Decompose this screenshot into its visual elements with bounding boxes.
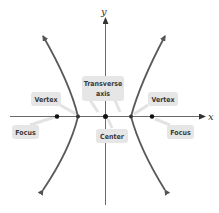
label-transverse-axis: Transverse axis — [82, 76, 124, 101]
focus-left-point — [55, 114, 60, 119]
center-point — [103, 114, 108, 119]
svg-text:Vertex: Vertex — [34, 96, 57, 104]
label-focus-right: Focus — [167, 125, 194, 139]
svg-text:Focus: Focus — [15, 129, 36, 137]
hyperbola-diagram: x y Vertex Focus Transverse axis Center … — [0, 0, 219, 213]
vertex-left-point — [76, 115, 80, 119]
svg-text:Center: Center — [100, 133, 125, 141]
label-vertex-left: Vertex — [31, 92, 61, 106]
focus-right-point — [150, 114, 155, 119]
label-center: Center — [96, 129, 128, 143]
x-axis-label: x — [208, 111, 214, 122]
svg-text:axis: axis — [96, 90, 110, 98]
svg-text:Transverse: Transverse — [84, 80, 123, 88]
y-axis-label: y — [100, 6, 107, 17]
svg-text:Focus: Focus — [170, 129, 191, 137]
label-vertex-right: Vertex — [148, 92, 178, 106]
label-focus-left: Focus — [12, 125, 39, 139]
svg-text:Vertex: Vertex — [151, 96, 174, 104]
vertex-right-point — [129, 115, 133, 119]
